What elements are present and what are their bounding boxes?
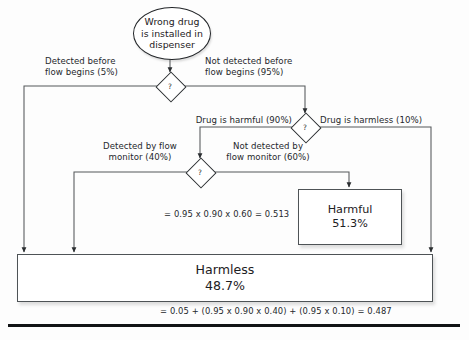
edge-label-not-detected-before: Not detected before flow begins (95%): [205, 56, 325, 78]
edge-label-not-detected-by-monitor: Not detected by flow monitor (60%): [216, 141, 320, 163]
bottom-divider: [8, 324, 460, 327]
diagram-canvas: Wrong drug is installed in dispenser ? ?…: [0, 0, 469, 340]
edge-label-detected-by-monitor: Detected by flow monitor (40%): [92, 141, 188, 163]
decision-node-2-glyph: ?: [295, 117, 315, 137]
root-node-wrong-drug: Wrong drug is installed in dispenser: [133, 7, 211, 60]
outcome-box-harmless: Harmless 48.7%: [17, 254, 433, 302]
formula-harmless: = 0.05 + (0.95 x 0.90 x 0.40) + (0.95 x …: [160, 306, 392, 316]
edge-label-detected-before: Detected before flow begins (5%): [45, 56, 150, 78]
decision-node-1-glyph: ?: [160, 76, 180, 96]
edge-label-drug-harmless: Drug is harmless (10%): [320, 115, 440, 126]
formula-harmful: = 0.95 x 0.90 x 0.60 = 0.513: [164, 209, 289, 219]
outcome-box-harmful: Harmful 51.3%: [298, 189, 402, 245]
decision-node-3-glyph: ?: [190, 162, 210, 182]
edge-label-drug-harmful: Drug is harmful (90%): [180, 115, 292, 126]
